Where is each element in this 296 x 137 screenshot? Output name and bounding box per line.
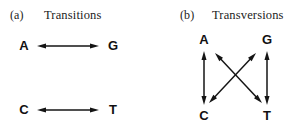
arrow-a-c [202, 51, 207, 105]
arrowhead [265, 51, 270, 60]
arrow-line-g-c [213, 57, 252, 99]
arrow-line-a-t [219, 57, 258, 99]
arrow-c-t [37, 108, 99, 113]
arrowhead [202, 51, 207, 60]
arrowhead [37, 44, 46, 49]
arrowhead [37, 108, 46, 113]
arrowhead [202, 96, 207, 105]
arrowhead [90, 44, 99, 49]
arrow-g-c [209, 53, 256, 103]
arrow-a-t [215, 53, 262, 103]
arrowhead [265, 96, 270, 105]
arrow-group [37, 44, 270, 113]
figure-root: (a) Transitions A G C T (b) Transversion… [0, 0, 296, 137]
arrow-g-t [265, 51, 270, 105]
arrow-layer [0, 0, 296, 137]
arrowhead [90, 108, 99, 113]
arrow-a-g [37, 44, 99, 49]
